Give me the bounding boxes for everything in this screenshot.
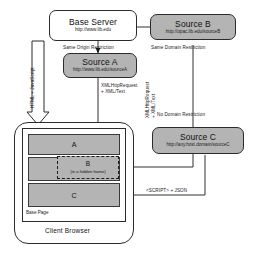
source-a-url: http://www.lib.edu/sourceA [73, 68, 127, 73]
panel-c-label: C [71, 192, 76, 199]
panel-a[interactable]: A [28, 134, 120, 155]
caption-xhr-source-b-line1: XMLHttpRequest [145, 82, 150, 118]
node-source-b[interactable]: Source B http://opac.lib.edu/sourceB [150, 14, 236, 40]
caption-script-json: <SCRIPT> + JSON [146, 188, 187, 193]
caption-same-origin-restriction: Same Origin Restriction [63, 45, 114, 50]
hidden-frame-b[interactable]: B (in a hidden frame) [57, 156, 119, 179]
caption-no-domain-restriction: No Domain Restriction [157, 112, 205, 117]
source-b-url: http://opac.lib.edu/sourceB [166, 30, 220, 35]
panel-b-label: B [86, 161, 90, 168]
base-server-url: http://www.lib.edu [75, 28, 111, 33]
panel-b-sublabel: (in a hidden frame) [70, 169, 105, 174]
caption-xhr-source-b-line2: + XML/Text [151, 94, 156, 118]
caption-same-domain-restriction: Same Domain Restriction [151, 45, 205, 50]
panel-a-label: A [72, 141, 77, 148]
source-c-label: Source C [180, 133, 216, 142]
source-b-label: Source B [175, 20, 211, 29]
base-server-label: Base Server [69, 18, 117, 27]
diagram-canvas: Base Server http://www.lib.edu Source A … [0, 0, 268, 253]
base-page-label: Base Page [26, 210, 48, 215]
client-browser-label: Client Browser [45, 227, 90, 234]
node-source-a[interactable]: Source A http://www.lib.edu/sourceA [63, 53, 137, 78]
caption-xhr-source-a-line2: + XML/Text [101, 89, 149, 95]
source-a-label: Source A [82, 58, 117, 67]
source-c-url: http://any.host.domain/sourceC [166, 143, 229, 148]
panel-c[interactable]: C [28, 183, 120, 207]
caption-html-javascript: HTML + JavaScript [30, 67, 35, 108]
node-source-c[interactable]: Source C http://any.host.domain/sourceC [152, 127, 244, 154]
node-base-server[interactable]: Base Server http://www.lib.edu [49, 10, 137, 41]
